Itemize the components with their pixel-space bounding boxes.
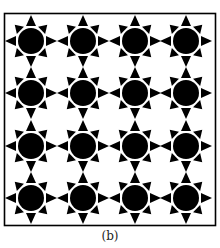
sun-icon (109, 67, 161, 119)
sun-grid (5, 15, 212, 224)
sun-icon (109, 172, 161, 224)
sun-icon (160, 120, 212, 172)
sun-icon (57, 120, 109, 172)
sun-icon (109, 120, 161, 172)
sun-icon (5, 120, 57, 172)
sun-icon (5, 172, 57, 224)
sun-icon (57, 67, 109, 119)
sun-icon (5, 15, 57, 67)
sun-icon (160, 15, 212, 67)
figure-caption: (b) (0, 229, 220, 243)
sun-icon (160, 67, 212, 119)
sun-icon (5, 67, 57, 119)
sun-icon (57, 15, 109, 67)
sun-icon (109, 15, 161, 67)
sun-icon (57, 172, 109, 224)
sun-icon (160, 172, 212, 224)
sun-tiling-figure (0, 0, 220, 228)
